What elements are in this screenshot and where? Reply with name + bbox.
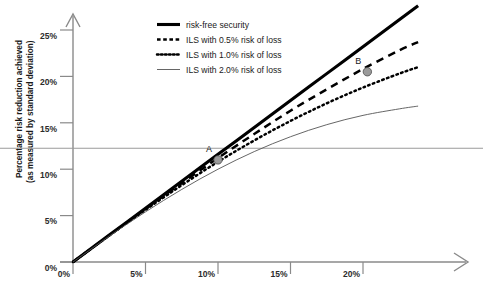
legend-item-risk-free-security: risk-free security [157,20,250,30]
data-point-marker-A [214,156,222,164]
x-tick-label-15: 15% [270,269,287,279]
y-tick-label-10: 10% [40,170,57,180]
data-point-marker-B [363,68,371,76]
legend-label-2: ILS with 1.0% risk of loss [186,50,282,60]
y-tick-label-5: 5% [45,216,58,226]
legend-label-0: risk-free security [186,20,250,30]
series-line-3 [73,106,418,262]
series-line-2 [73,67,418,262]
data-point-label-A: A [206,144,212,154]
y-axis-label-line2: (as measured by standard deviation) [26,40,35,183]
x-tick-label-10: 10% [198,269,215,279]
x-tick-label-5: 5% [130,269,143,279]
data-point-label-B: B [355,56,361,66]
y-tick-label-25: 25% [40,31,57,41]
legend-item-ils-05: ILS with 0.5% risk of loss [157,35,282,45]
legend-label-1: ILS with 0.5% risk of loss [186,35,282,45]
y-axis-label: Percentage risk reduction achieved (as m… [15,40,35,183]
legend-item-ils-10: ILS with 1.0% risk of loss [157,50,282,60]
y-axis-label-line1: Percentage risk reduction achieved [15,40,24,178]
legend-item-ils-20: ILS with 2.0% risk of loss [157,65,282,75]
x-tick-label-20: 20% [343,269,360,279]
legend-label-3: ILS with 2.0% risk of loss [186,65,282,75]
y-tick-label-15: 15% [40,124,57,134]
x-tick-label-0: 0% [58,269,71,279]
y-axis-ticks: 0% 5% 10% 15% 20% 25% [40,30,73,273]
chart-legend: risk-free security ILS with 0.5% risk of… [157,20,282,75]
y-tick-label-20: 20% [40,77,57,87]
y-tick-label-0: 0% [45,263,58,273]
risk-reduction-chart: Percentage risk reduction achieved (as m… [0,0,483,285]
x-axis-ticks: 0% 5% 10% 15% 20% [58,262,363,279]
